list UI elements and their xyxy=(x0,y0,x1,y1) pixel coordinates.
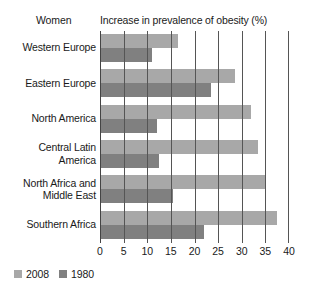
bar-group xyxy=(100,208,289,243)
bar-1980 xyxy=(100,83,211,97)
bar-2008 xyxy=(100,140,258,154)
axis-tick-label: 15 xyxy=(165,245,177,257)
series-group-label: Women xyxy=(36,14,72,26)
bar-group xyxy=(100,66,289,101)
bar-group xyxy=(100,31,289,66)
category-label: Southern Africa xyxy=(0,218,96,231)
chart-legend: 20081980 xyxy=(14,267,94,281)
bar-1980 xyxy=(100,225,204,239)
axis-tick-label: 25 xyxy=(212,245,224,257)
bar-1980 xyxy=(100,154,159,168)
category-axis-labels: Western EuropeEastern EuropeNorth Americ… xyxy=(0,31,96,243)
bar-1980 xyxy=(100,189,173,203)
legend-item-2008[interactable]: 2008 xyxy=(14,268,49,280)
bar-group xyxy=(100,137,289,172)
obesity-prevalence-chart: Women Increase in prevalence of obesity … xyxy=(0,0,313,288)
category-label: Western Europe xyxy=(0,41,96,54)
bar-2008 xyxy=(100,211,277,225)
axis-tick-label: 40 xyxy=(283,245,295,257)
bar-group xyxy=(100,172,289,207)
legend-swatch-icon xyxy=(14,270,22,278)
axis-tick-label: 20 xyxy=(189,245,201,257)
chart-header: Women Increase in prevalence of obesity … xyxy=(0,14,313,30)
bar-1980 xyxy=(100,119,157,133)
bar-2008 xyxy=(100,105,251,119)
axis-tick-label: 5 xyxy=(121,245,127,257)
bar-group xyxy=(100,102,289,137)
axis-tick-label: 30 xyxy=(236,245,248,257)
bar-2008 xyxy=(100,34,178,48)
category-label: Eastern Europe xyxy=(0,77,96,90)
bar-1980 xyxy=(100,48,152,62)
category-label: North Africa and Middle East xyxy=(0,177,96,202)
bar-2008 xyxy=(100,69,235,83)
category-label: North America xyxy=(0,112,96,125)
category-label: Central Latin America xyxy=(0,141,96,166)
bar-rows xyxy=(100,31,289,243)
legend-item-1980[interactable]: 1980 xyxy=(59,268,94,280)
plot-area xyxy=(100,31,289,243)
axis-tick-label: 35 xyxy=(260,245,272,257)
legend-swatch-icon xyxy=(59,270,67,278)
axis-tick-label: 10 xyxy=(141,245,153,257)
legend-label: 2008 xyxy=(26,268,49,280)
legend-label: 1980 xyxy=(71,268,94,280)
axis-tick-label: 0 xyxy=(97,245,103,257)
bar-2008 xyxy=(100,175,265,189)
chart-title: Increase in prevalence of obesity (%) xyxy=(100,14,267,26)
value-axis: 0510152025303540 xyxy=(100,245,289,259)
